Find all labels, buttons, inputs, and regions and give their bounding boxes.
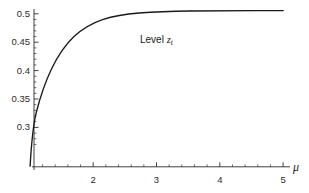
x-axis-tick-label: 5 — [268, 175, 298, 185]
y-axis-tick-label: 0.45 — [12, 37, 31, 47]
y-axis-tick-label: 0.3 — [17, 122, 30, 132]
chart-figure: 0.50.450.40.350.3 2345 μ Level zt — [0, 0, 309, 193]
y-axis-tick-label: 0.5 — [17, 9, 30, 19]
annotation-subscript: t — [171, 38, 173, 47]
x-axis-tick-label: 4 — [205, 175, 235, 185]
annotation-prefix: Level — [140, 34, 167, 45]
level-curve-annotation: Level zt — [140, 35, 173, 46]
y-axis-tick-label: 0.35 — [12, 94, 31, 104]
y-axis-tick-label: 0.4 — [17, 66, 30, 76]
x-axis-label-mu: μ — [293, 161, 299, 173]
x-axis-major-ticks — [93, 162, 283, 167]
x-axis-tick-label: 2 — [78, 175, 108, 185]
plot-canvas — [0, 0, 309, 193]
x-axis-tick-label: 3 — [142, 175, 172, 185]
